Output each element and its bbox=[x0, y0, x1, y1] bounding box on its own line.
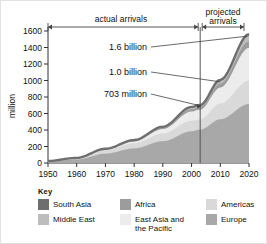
leader-703-million bbox=[151, 94, 201, 106]
y-tick-label: 400 bbox=[28, 125, 42, 135]
legend-item[interactable]: Americas bbox=[206, 199, 264, 210]
legend-item[interactable]: South Asia bbox=[38, 199, 120, 210]
annotation-703-million: 703 million bbox=[104, 89, 147, 99]
leader-1-6-billion bbox=[151, 36, 247, 47]
span-arrow-actual-head bbox=[48, 25, 52, 30]
legend-item-label: East Asia andthe Pacific bbox=[135, 214, 184, 233]
y-axis-ticks: 02004006008001000120014001600 bbox=[23, 26, 48, 168]
stacked-areas bbox=[48, 34, 249, 163]
legend-swatch-icon bbox=[120, 214, 131, 225]
span-label-actual-arrivals: actual arrivals bbox=[95, 14, 147, 24]
legend-item-label: South Asia bbox=[53, 199, 91, 209]
legend: Key South AsiaAfricaAmericasMiddle EastE… bbox=[38, 187, 264, 233]
y-axis-title: million bbox=[7, 94, 17, 118]
x-tick-label: 1950 bbox=[39, 169, 58, 179]
annotation-1-6-billion: 1.6 billion bbox=[109, 42, 147, 52]
x-tick-label: 2010 bbox=[211, 169, 230, 179]
x-tick-label: 1990 bbox=[153, 169, 172, 179]
legend-item-label: Middle East bbox=[53, 214, 95, 224]
chart-figure: million 02004006008001000120014001600 19… bbox=[0, 0, 267, 244]
legend-item[interactable]: Africa bbox=[120, 199, 206, 210]
legend-item-label: Americas bbox=[221, 199, 254, 209]
x-tick-label: 1960 bbox=[67, 169, 86, 179]
annotation-1-0-billion: 1.0 billion bbox=[109, 67, 147, 77]
y-tick-label: 200 bbox=[28, 142, 42, 152]
x-tick-label: 1980 bbox=[125, 169, 144, 179]
y-tick-label: 1000 bbox=[23, 76, 42, 86]
y-tick-label: 1400 bbox=[23, 43, 42, 53]
legend-item[interactable]: East Asia andthe Pacific bbox=[120, 214, 206, 233]
x-tick-label: 2020 bbox=[240, 169, 259, 179]
legend-item[interactable]: Europe bbox=[206, 214, 264, 233]
span-arrow-actual-head bbox=[194, 25, 198, 30]
y-tick-label: 0 bbox=[37, 158, 42, 168]
legend-swatch-icon bbox=[206, 199, 217, 210]
leader-1-0-billion bbox=[151, 72, 220, 82]
span-arrow-projected-head bbox=[202, 25, 206, 30]
legend-item-label: Africa bbox=[135, 199, 155, 209]
x-axis-ticks: 19501960197019801990200020102020 bbox=[39, 163, 259, 179]
y-tick-label: 1600 bbox=[23, 26, 42, 36]
y-tick-label: 600 bbox=[28, 109, 42, 119]
legend-title: Key bbox=[38, 187, 264, 196]
span-arrow-projected-head bbox=[240, 25, 244, 30]
y-tick-label: 800 bbox=[28, 92, 42, 102]
legend-swatch-icon bbox=[206, 214, 217, 225]
legend-item[interactable]: Middle East bbox=[38, 214, 120, 233]
x-tick-label: 2000 bbox=[182, 169, 201, 179]
legend-item-label: Europe bbox=[221, 214, 247, 224]
x-tick-label: 1970 bbox=[96, 169, 115, 179]
legend-swatch-icon bbox=[38, 214, 49, 225]
span-label-projected-line2: arrivals bbox=[209, 16, 236, 26]
legend-swatch-icon bbox=[38, 199, 49, 210]
legend-swatch-icon bbox=[120, 199, 131, 210]
legend-items: South AsiaAfricaAmericasMiddle EastEast … bbox=[38, 199, 264, 233]
y-tick-label: 1200 bbox=[23, 59, 42, 69]
